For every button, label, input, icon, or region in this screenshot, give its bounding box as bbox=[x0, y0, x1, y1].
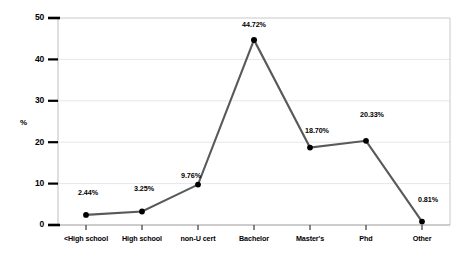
x-tick-label-masters: Master's bbox=[296, 234, 324, 243]
data-label-bachelor: 44.72% bbox=[242, 20, 266, 29]
x-tick-label-bachelor: Bachelor bbox=[239, 234, 269, 243]
y-axis-title: % bbox=[20, 118, 27, 127]
x-axis-ticks bbox=[86, 225, 422, 230]
plot-area-background bbox=[58, 18, 450, 225]
data-point-marker bbox=[195, 182, 201, 188]
line-chart: % 50 40 30 20 10 0 <High school High sch… bbox=[0, 0, 471, 259]
data-point-marker bbox=[83, 212, 89, 218]
y-tick-label-40: 40 bbox=[22, 55, 44, 64]
x-tick-label-high-school: High school bbox=[122, 234, 162, 243]
data-label-high-school: 3.25% bbox=[134, 184, 154, 193]
x-tick-label-other: Other bbox=[413, 234, 432, 243]
y-tick-label-30: 30 bbox=[22, 96, 44, 105]
data-point-marker bbox=[419, 219, 425, 225]
data-label-non-u-cert: 9.76% bbox=[181, 171, 201, 180]
data-point-marker bbox=[139, 209, 145, 215]
data-label-phd: 20.33% bbox=[360, 110, 384, 119]
data-point-marker bbox=[307, 145, 313, 151]
data-point-marker bbox=[363, 138, 369, 144]
data-point-marker bbox=[251, 37, 257, 43]
data-label-less-than-high-school: 2.44% bbox=[78, 188, 98, 197]
data-label-masters: 18.70% bbox=[305, 126, 329, 135]
chart-canvas bbox=[0, 0, 471, 259]
y-tick-label-10: 10 bbox=[22, 179, 44, 188]
x-tick-label-phd: Phd bbox=[359, 234, 372, 243]
y-tick-label-0: 0 bbox=[22, 220, 44, 229]
x-tick-label-less-than-high-school: <High school bbox=[64, 234, 108, 243]
x-tick-label-non-u-cert: non-U cert bbox=[181, 234, 216, 243]
y-tick-label-20: 20 bbox=[22, 138, 44, 147]
y-tick-label-50: 50 bbox=[22, 13, 44, 22]
data-label-other: 0.81% bbox=[418, 195, 438, 204]
